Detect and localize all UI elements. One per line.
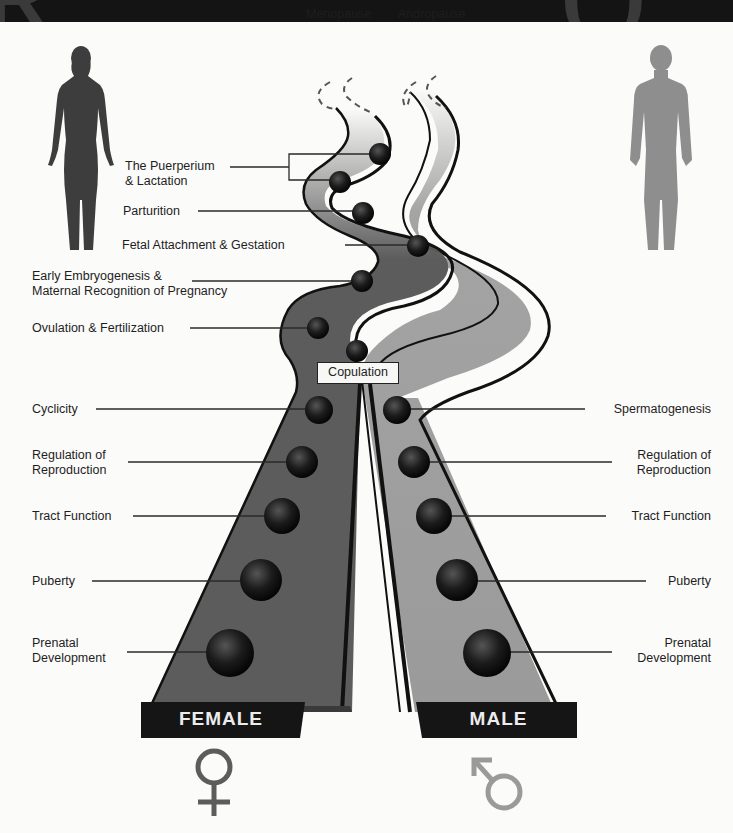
node-female-puberty xyxy=(240,559,282,601)
node-puerperium xyxy=(369,143,391,165)
node-lactation xyxy=(329,171,351,193)
male-symbol-icon xyxy=(474,760,520,808)
label-male-puberty: Puberty xyxy=(668,574,711,589)
node-male-regulation xyxy=(398,446,430,478)
male-base-label: MALE xyxy=(420,708,577,730)
label-female-cyclicity: Cyclicity xyxy=(32,402,78,417)
label-fetal-attachment: Fetal Attachment & Gestation xyxy=(122,238,285,253)
node-male-spermatogenesis xyxy=(383,396,411,424)
node-ovulation xyxy=(307,317,329,339)
label-ovulation: Ovulation & Fertilization xyxy=(32,321,164,336)
male-silhouette-icon xyxy=(630,45,692,250)
copulation-label: Copulation xyxy=(317,362,399,384)
node-copulation xyxy=(346,340,368,362)
node-female-cyclicity xyxy=(305,396,333,424)
label-parturition: Parturition xyxy=(123,204,180,219)
node-male-puberty xyxy=(436,559,478,601)
node-male-prenatal xyxy=(463,629,511,677)
label-male-spermatogenesis: Spermatogenesis xyxy=(614,402,711,417)
label-early-embryogenesis: Early Embryogenesis & Maternal Recogniti… xyxy=(32,269,227,299)
node-male-tract xyxy=(416,498,452,534)
node-early-embryogenesis xyxy=(351,270,373,292)
female-silhouette-icon xyxy=(48,46,114,250)
label-female-regulation: Regulation of Reproduction xyxy=(32,448,106,478)
label-male-regulation: Regulation of Reproduction xyxy=(637,448,711,478)
node-fetal-attachment xyxy=(407,235,429,257)
label-male-prenatal: Prenatal Development xyxy=(637,636,711,666)
label-female-prenatal: Prenatal Development xyxy=(32,636,106,666)
label-female-tract: Tract Function xyxy=(32,509,111,524)
node-female-prenatal xyxy=(206,629,254,677)
menopause-label: Menopause xyxy=(306,7,371,22)
andropause-label: Andropause xyxy=(398,7,465,22)
node-female-regulation xyxy=(286,446,318,478)
female-symbol-icon xyxy=(198,751,230,816)
label-female-puberty: Puberty xyxy=(32,574,75,589)
female-base-label: FEMALE xyxy=(141,708,301,730)
node-female-tract xyxy=(264,498,300,534)
label-puerperium: The Puerperium & Lactation xyxy=(125,159,215,189)
node-parturition xyxy=(352,202,374,224)
label-male-tract: Tract Function xyxy=(632,509,711,524)
